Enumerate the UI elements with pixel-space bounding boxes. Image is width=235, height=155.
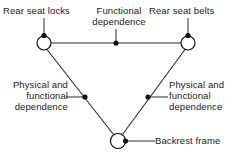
- label-functional-dependence-line1: Functional: [88, 5, 150, 16]
- label-right-dependence-line3: dependence: [169, 101, 235, 112]
- label-rear-seat-belts-text: Rear seat belts: [149, 5, 214, 16]
- label-left-dependence-line1: Physical and: [2, 79, 68, 90]
- label-rear-seat-locks: Rear seat locks: [3, 5, 70, 16]
- label-rear-seat-belts: Rear seat belts: [149, 5, 214, 16]
- label-functional-dependence: Functional dependence: [88, 5, 150, 27]
- label-right-dependence-line2: functional: [169, 90, 235, 101]
- dot-node-backrest: [123, 138, 128, 143]
- dot-node-locks: [41, 33, 46, 38]
- dot-edge-belts-backrest: [145, 94, 150, 99]
- label-left-dependence-line3: dependence: [2, 101, 68, 112]
- diagram-canvas: Rear seat locks Functional dependence Re…: [0, 0, 235, 155]
- label-backrest-frame: Backrest frame: [155, 135, 220, 146]
- dot-node-belts: [185, 33, 190, 38]
- dot-edge-locks-backrest: [82, 94, 87, 99]
- label-rear-seat-locks-text: Rear seat locks: [3, 5, 70, 16]
- label-right-dependence: Physical and functional dependence: [169, 79, 235, 112]
- label-backrest-frame-text: Backrest frame: [155, 135, 220, 146]
- label-functional-dependence-line2: dependence: [88, 16, 150, 27]
- label-right-dependence-line1: Physical and: [169, 79, 235, 90]
- dot-edge-locks-belts: [113, 40, 118, 45]
- label-left-dependence: Physical and functional dependence: [2, 79, 68, 112]
- label-left-dependence-line2: functional: [2, 90, 68, 101]
